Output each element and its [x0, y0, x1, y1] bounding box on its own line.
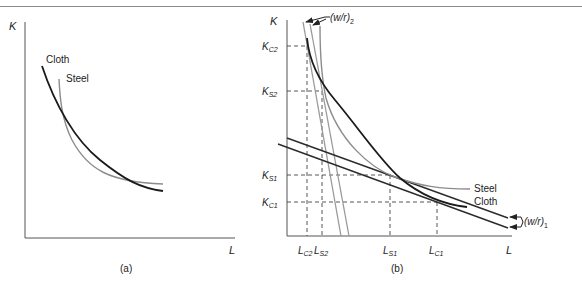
isocost-steep-2 — [310, 24, 349, 236]
panel-b-cloth-label: Cloth — [474, 196, 497, 207]
panel-a-x-label: L — [229, 244, 235, 256]
y-tick-kc1: KC1 — [262, 197, 278, 209]
arrow-flat-leader-a — [521, 217, 523, 222]
dashed-guides — [287, 46, 437, 236]
x-tick-lc2: LC2 — [298, 245, 313, 257]
x-tick-lc1: LC1 — [429, 245, 444, 257]
y-tick-kc2: KC2 — [262, 41, 278, 53]
arrow-flat-leader-b — [521, 222, 523, 227]
panel-b-x-label: L — [506, 244, 512, 256]
y-tick-ks2: KS2 — [262, 86, 277, 98]
y-tick-ks1: KS1 — [262, 170, 277, 182]
isoquant-diagram: K L (a) Cloth Steel K L (b) — [0, 0, 582, 288]
panel-a-cloth-label: Cloth — [46, 54, 69, 65]
panel-b: K L (b) Steel Cloth (w/r)2 — [262, 12, 548, 274]
isocost-steep-label: (w/r)2 — [330, 12, 354, 25]
x-tick-ls1: LS1 — [383, 245, 397, 257]
x-tick-ls2: LS2 — [314, 245, 328, 257]
panel-b-caption: (b) — [391, 263, 403, 274]
panel-a: K L (a) Cloth Steel — [9, 20, 235, 274]
panel-b-steel-isoquant — [320, 26, 470, 189]
panel-b-steel-label: Steel — [474, 183, 497, 194]
panel-a-steel-label: Steel — [66, 73, 89, 84]
isocost-flat-label: (w/r)1 — [524, 216, 548, 229]
panel-a-y-label: K — [9, 20, 17, 32]
panel-b-y-label: K — [270, 15, 278, 27]
panel-a-caption: (a) — [120, 263, 132, 274]
